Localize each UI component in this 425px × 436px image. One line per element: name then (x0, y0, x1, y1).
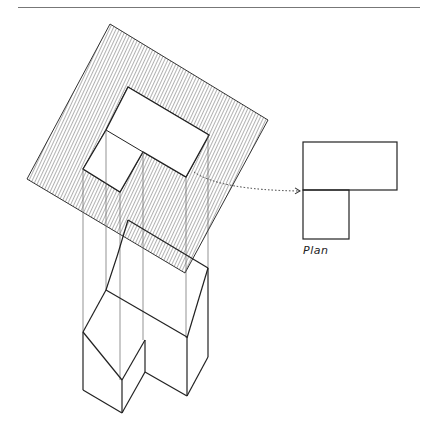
plan-oblique-drawing (0, 0, 425, 436)
plan-view (303, 142, 397, 239)
plan-label: Plan (303, 244, 328, 257)
